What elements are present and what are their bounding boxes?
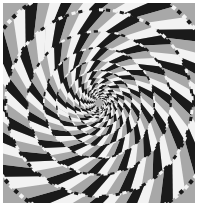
illusion-graphic <box>3 3 195 203</box>
fraser-spiral-illusion <box>3 3 195 203</box>
